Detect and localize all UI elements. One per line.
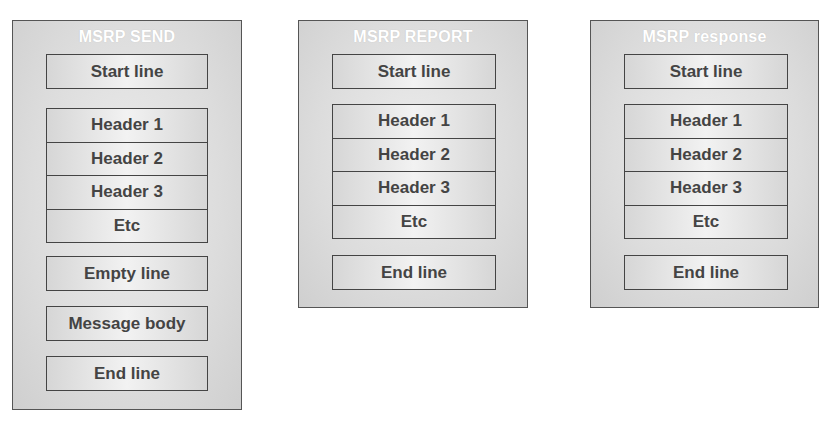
header-row: Header 2 bbox=[333, 139, 495, 173]
end-line-box: End line bbox=[624, 255, 788, 290]
panel-title: MSRP SEND bbox=[13, 28, 241, 46]
header-row: Header 2 bbox=[47, 143, 207, 177]
msrp-send-panel: MSRP SEND Start line Header 1 Header 2 H… bbox=[12, 20, 242, 410]
header-row: Header 1 bbox=[333, 105, 495, 139]
msrp-report-panel: MSRP REPORT Start line Header 1 Header 2… bbox=[298, 20, 528, 308]
msrp-response-panel: MSRP response Start line Header 1 Header… bbox=[590, 20, 819, 308]
message-body-box: Message body bbox=[46, 306, 208, 341]
end-line-box: End line bbox=[46, 356, 208, 391]
header-row: Header 3 bbox=[625, 172, 787, 206]
headers-group: Header 1 Header 2 Header 3 Etc bbox=[332, 104, 496, 239]
headers-group: Header 1 Header 2 Header 3 Etc bbox=[624, 104, 788, 239]
panel-title: MSRP response bbox=[591, 28, 818, 46]
headers-group: Header 1 Header 2 Header 3 Etc bbox=[46, 108, 208, 243]
header-row-etc: Etc bbox=[47, 210, 207, 243]
header-row-etc: Etc bbox=[625, 206, 787, 239]
header-row-etc: Etc bbox=[333, 206, 495, 239]
header-row: Header 3 bbox=[47, 176, 207, 210]
start-line-box: Start line bbox=[624, 54, 788, 89]
start-line-box: Start line bbox=[332, 54, 496, 89]
empty-line-box: Empty line bbox=[46, 256, 208, 291]
end-line-box: End line bbox=[332, 255, 496, 290]
header-row: Header 2 bbox=[625, 139, 787, 173]
start-line-box: Start line bbox=[46, 54, 208, 89]
header-row: Header 1 bbox=[47, 109, 207, 143]
header-row: Header 3 bbox=[333, 172, 495, 206]
header-row: Header 1 bbox=[625, 105, 787, 139]
panel-title: MSRP REPORT bbox=[299, 28, 527, 46]
